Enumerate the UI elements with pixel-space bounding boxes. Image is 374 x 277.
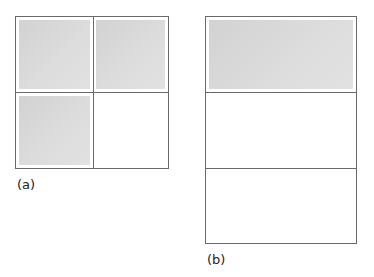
diagram-a-horizontal-divider xyxy=(15,92,169,93)
diagram-a-cell-top-left-filled xyxy=(19,20,90,89)
diagram-b-divider-1 xyxy=(205,92,357,93)
diagram-a-cell-bottom-left-filled xyxy=(19,96,90,165)
diagram-b-divider-2 xyxy=(205,168,357,169)
diagram-a-cell-top-right-filled xyxy=(96,20,165,89)
diagram-b-cell-top-filled xyxy=(209,20,353,89)
diagram-a-label: (a) xyxy=(17,178,35,191)
diagram-b-label: (b) xyxy=(207,253,225,266)
